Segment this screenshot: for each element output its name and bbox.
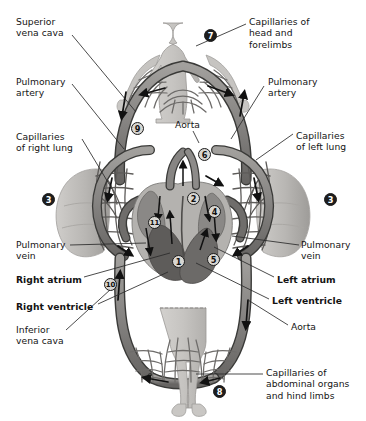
label-aorta-center: Aorta	[175, 119, 200, 130]
label-left-atrium: Left atrium	[277, 274, 336, 285]
marker-10[interactable]: 10	[104, 278, 117, 291]
label-left-ventricle: Left ventricle	[272, 295, 342, 306]
marker-7[interactable]: 7	[204, 29, 217, 42]
label-right-atrium: Right atrium	[16, 274, 82, 285]
label-pulmonary-vein-right: Pulmonary vein	[301, 239, 350, 262]
label-right-ventricle: Right ventricle	[16, 301, 93, 312]
arrow-aorta-origin	[206, 176, 220, 184]
circulation-diagram: Superior vena cavaPulmonary arteryCapill…	[0, 0, 366, 421]
label-inferior-vena-cava: Inferior vena cava	[16, 324, 64, 347]
marker-8[interactable]: 8	[213, 385, 226, 398]
label-capillaries-of-right-lung: Capillaries of right lung	[16, 131, 73, 154]
label-pulmonary-vein-left: Pulmonary vein	[16, 239, 65, 262]
label-pulmonary-artery-left: Pulmonary artery	[16, 76, 65, 99]
leader-aorta-center	[193, 131, 199, 143]
marker-3-right[interactable]: 3	[324, 193, 337, 206]
marker-6[interactable]: 6	[198, 148, 211, 161]
label-superior-vena-cava: Superior vena cava	[16, 16, 64, 39]
label-capillaries-of-left-lung: Capillaries of left lung	[296, 130, 346, 153]
marker-3-left[interactable]: 3	[42, 193, 55, 206]
leader-left-ventricle	[196, 263, 269, 299]
label-pulmonary-artery-right: Pulmonary artery	[268, 76, 317, 99]
leader-capillaries-left-lung	[256, 134, 293, 160]
leader-superior-vena-cava	[72, 35, 136, 112]
marker-1[interactable]: 1	[172, 255, 185, 268]
label-capillaries-of-head-and-forelimbs: Capillaries of head and forelimbs	[249, 16, 309, 50]
marker-9[interactable]: 9	[131, 122, 144, 135]
leader-pulmonary-artery-left	[72, 84, 124, 149]
marker-11[interactable]: 11	[148, 216, 161, 229]
label-capillaries-of-abdominal-organs: Capillaries of abdominal organs and hind…	[266, 367, 349, 401]
diagram-artwork	[0, 0, 366, 421]
marker-4[interactable]: 4	[208, 205, 221, 218]
marker-2[interactable]: 2	[187, 192, 200, 205]
label-aorta-right: Aorta	[291, 321, 316, 332]
marker-5[interactable]: 5	[207, 253, 220, 266]
